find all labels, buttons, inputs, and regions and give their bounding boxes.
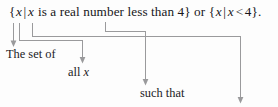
annotation-label-the-set-of: The set of <box>6 47 56 61</box>
leader-line-the-set-of <box>11 23 17 47</box>
annotation-label-all-x-var: x <box>83 65 89 79</box>
formula-bar-1: | <box>22 4 27 19</box>
annotation-label-such-that: such that <box>140 86 184 100</box>
leader-line-such-that <box>106 22 149 86</box>
annotation-label-all-x: all x <box>68 65 89 79</box>
annotation-label-all-x-prefix: all <box>68 65 83 79</box>
annotated-set-builder-figure: {x|x is a real number less than 4} or {x… <box>0 0 278 107</box>
set-builder-formula: {x|x is a real number less than 4} or {x… <box>9 3 261 20</box>
leader-line-condition <box>33 23 244 104</box>
formula-period: . <box>258 4 261 19</box>
formula-relation: < <box>234 4 245 19</box>
formula-connector: or <box>191 4 209 19</box>
formula-var-2: x <box>28 4 35 19</box>
formula-predicate: is a real number less than 4 <box>35 4 185 19</box>
